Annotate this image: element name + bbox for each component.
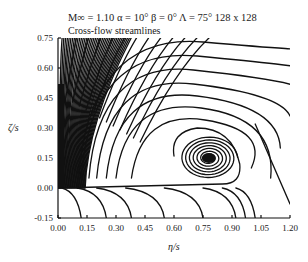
y-tick-label: 0.30 <box>37 123 53 133</box>
streamline-lower <box>222 188 245 218</box>
x-tick-label: 1.05 <box>253 223 269 233</box>
vortex-core <box>202 153 216 163</box>
streamline-lower <box>77 188 106 218</box>
streamline-lower <box>203 188 236 218</box>
chart-subtitle: M∞ = 1.10 α = 10° β = 0° Λ = 75° 128 x 1… <box>68 12 257 23</box>
x-axis-label: η/s <box>168 241 180 252</box>
x-tick-label: 0.60 <box>166 223 182 233</box>
streamline-right <box>255 124 290 204</box>
y-axis-label: ζ/s <box>8 122 19 134</box>
plot-area <box>58 32 302 218</box>
x-tick-label: 0.75 <box>195 223 211 233</box>
x-tick-label: 0.30 <box>108 223 124 233</box>
chart-title: Cross-flow streamlines <box>68 25 161 36</box>
near-wall-band <box>58 84 64 188</box>
y-tick-label: 0.15 <box>37 153 53 163</box>
y-tick-label: 0.00 <box>37 183 53 193</box>
y-tick-label: 0.75 <box>37 33 53 43</box>
streamline-lower <box>62 188 81 218</box>
streamline-lower <box>126 188 165 218</box>
y-tick-label: -0.15 <box>34 213 53 223</box>
chart: M∞ = 1.10 α = 10° β = 0° Λ = 75° 128 x 1… <box>0 0 308 262</box>
streamline-lower <box>236 188 255 218</box>
x-tick-label: 0.90 <box>224 223 240 233</box>
x-tick-label: 0.45 <box>137 223 153 233</box>
x-tick-label: 1.20 <box>282 223 298 233</box>
streamline-lower <box>164 188 203 218</box>
x-tick-label: 0.00 <box>50 223 66 233</box>
y-tick-label: 0.60 <box>37 63 53 73</box>
y-tick-label: 0.45 <box>37 93 53 103</box>
x-tick-label: 0.15 <box>79 223 95 233</box>
